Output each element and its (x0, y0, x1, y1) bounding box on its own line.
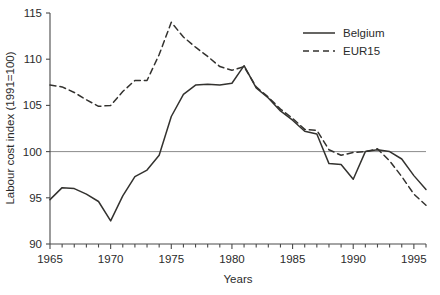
y-tick-label: 110 (24, 53, 42, 65)
y-tick-label: 105 (23, 99, 42, 111)
y-tick-label: 95 (29, 192, 42, 204)
x-tick-label: 1980 (219, 253, 245, 265)
x-tick-label: 1970 (98, 253, 124, 265)
x-tick-label: 1985 (280, 253, 306, 265)
legend-label-belgium: Belgium (343, 27, 385, 39)
x-tick-label: 1975 (158, 253, 184, 265)
y-tick-label: 115 (24, 7, 42, 19)
y-tick-label: 90 (29, 238, 42, 250)
x-axis-tick-labels: 1965197019751980198519901995 (37, 253, 426, 265)
x-tick-label: 1965 (37, 253, 63, 265)
y-axis-tick-labels: 9095100105110115 (23, 7, 42, 250)
legend-label-eur15: EUR15 (343, 45, 380, 57)
series-line-belgium (50, 66, 426, 221)
y-axis-title: Labour cost index (1991=100) (4, 51, 16, 204)
chart-legend: BelgiumEUR15 (303, 27, 385, 57)
x-tick-label: 1995 (401, 253, 427, 265)
chart-container: 9095100105110115 19651970197519801985199… (0, 0, 440, 295)
labour-cost-index-line-chart: 9095100105110115 19651970197519801985199… (0, 0, 440, 295)
y-tick-label: 100 (23, 146, 42, 158)
x-axis-title: Years (224, 273, 253, 285)
x-tick-label: 1990 (340, 253, 366, 265)
